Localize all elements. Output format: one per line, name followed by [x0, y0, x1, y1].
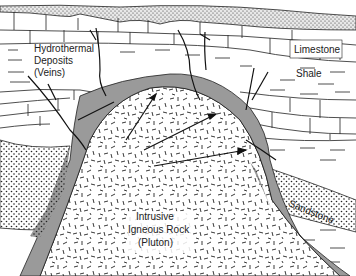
shale-label: Shale — [296, 68, 322, 79]
surface-sediment-layer — [0, 5, 356, 30]
pluton-label-line2: Igneous Rock — [128, 224, 190, 235]
veins-label-line2: Deposits — [34, 55, 73, 66]
limestone-label: Limestone — [294, 44, 341, 55]
vein — [252, 72, 268, 100]
veins-label-line1: Hydrothermal — [34, 43, 94, 54]
pluton-label-line3: (Pluton) — [138, 237, 173, 248]
diagram-svg: Limestone Shale Hydrothermal Deposits (V… — [0, 0, 356, 276]
vein — [96, 28, 106, 96]
vein — [48, 84, 56, 100]
pluton-label-line1: Intrusive — [136, 211, 174, 222]
veins-label-line3: (Veins) — [34, 67, 65, 78]
geology-diagram: Limestone Shale Hydrothermal Deposits (V… — [0, 0, 356, 276]
vein — [246, 68, 254, 110]
